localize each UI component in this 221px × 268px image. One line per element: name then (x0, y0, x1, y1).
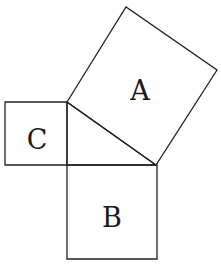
label-a: A (129, 75, 150, 106)
diagram-svg: A B C (0, 0, 221, 268)
label-c: C (27, 124, 48, 155)
label-b: B (102, 202, 122, 233)
pythagorean-diagram: A B C (0, 0, 221, 268)
